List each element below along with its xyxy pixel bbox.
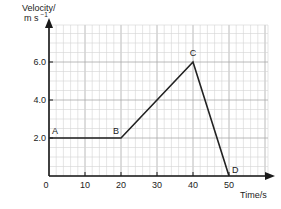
- x-tick-label: 20: [116, 180, 126, 190]
- x-tick-label: 0: [43, 180, 48, 190]
- grid: [49, 25, 268, 176]
- x-axis-label: Time/s: [240, 190, 267, 200]
- y-tick-label: 4.0: [33, 95, 46, 105]
- y-axis-arrow-icon: [45, 18, 53, 28]
- y-axis-label-line1: Velocity/: [22, 3, 56, 13]
- x-tick-label: 10: [80, 180, 90, 190]
- point-label-d: D: [232, 165, 239, 175]
- velocity-time-chart: 010203040502.04.06.0 ABCD Velocity/ m s−…: [0, 0, 281, 209]
- axes: [45, 18, 275, 180]
- x-axis-arrow-icon: [265, 172, 275, 180]
- y-tick-label: 2.0: [33, 133, 46, 143]
- x-tick-label: 50: [224, 180, 234, 190]
- y-tick-label: 6.0: [33, 57, 46, 67]
- y-axis-label-line2: m s−1: [24, 11, 48, 23]
- point-label-b: B: [113, 126, 119, 136]
- x-tick-label: 30: [152, 180, 162, 190]
- point-label-c: C: [190, 48, 197, 58]
- x-tick-label: 40: [188, 180, 198, 190]
- point-label-a: A: [52, 126, 58, 136]
